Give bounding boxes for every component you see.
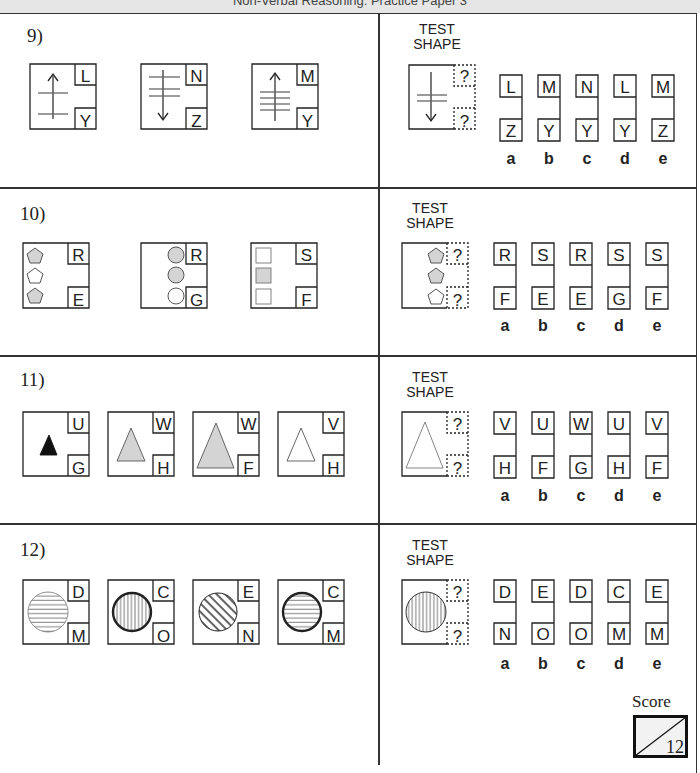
svg-text:C: C	[327, 583, 339, 602]
svg-text:O: O	[574, 625, 587, 644]
option-c[interactable]: c	[569, 655, 593, 673]
option-d[interactable]: d	[607, 655, 631, 673]
svg-text:N: N	[499, 625, 511, 644]
svg-text:C: C	[613, 583, 625, 602]
svg-text:?: ?	[453, 583, 462, 602]
svg-text:M: M	[326, 627, 340, 646]
option-a[interactable]: a	[493, 655, 517, 673]
svg-text:O: O	[536, 625, 549, 644]
svg-text:M: M	[612, 625, 626, 644]
score-total: 12	[666, 737, 684, 757]
svg-text:O: O	[157, 627, 170, 646]
svg-text:?: ?	[453, 627, 462, 646]
svg-text:E: E	[537, 583, 548, 602]
test-shape-label: TESTSHAPE	[395, 538, 465, 568]
svg-text:M: M	[650, 625, 664, 644]
svg-text:E: E	[651, 583, 662, 602]
svg-text:D: D	[575, 583, 587, 602]
svg-text:M: M	[71, 627, 85, 646]
option-b[interactable]: b	[531, 655, 555, 673]
option-e[interactable]: e	[645, 655, 669, 673]
score-label: Score	[632, 692, 671, 712]
svg-text:E: E	[243, 583, 254, 602]
score-box[interactable]: 12	[633, 715, 688, 758]
hatched-circle-icons	[28, 592, 446, 632]
question-12-figures: D M C O E N C M ? ? D N E O D O C M E M	[0, 0, 700, 700]
svg-text:D: D	[499, 583, 511, 602]
svg-text:D: D	[72, 583, 84, 602]
svg-text:N: N	[242, 627, 254, 646]
svg-text:C: C	[157, 583, 169, 602]
